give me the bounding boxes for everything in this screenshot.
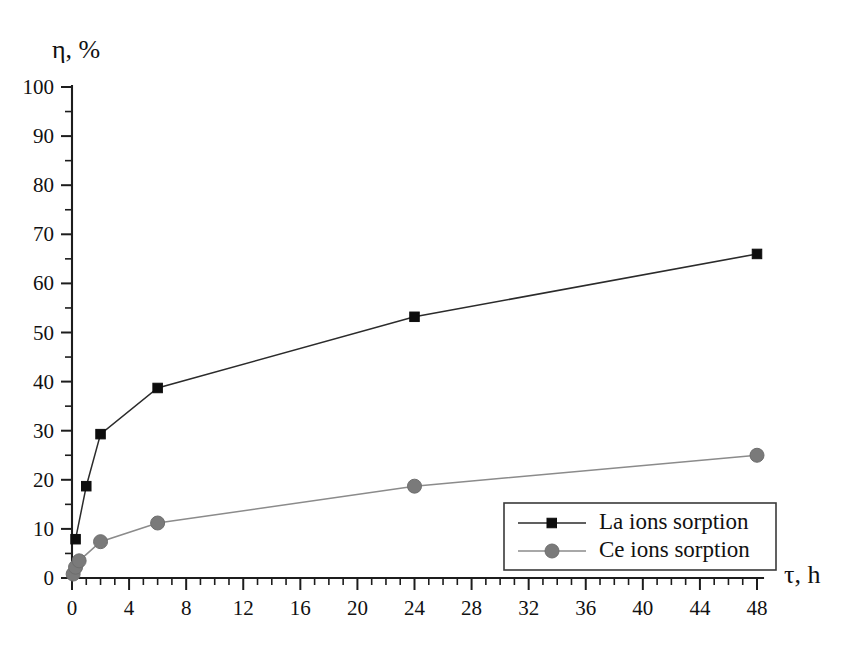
data-point-la xyxy=(82,481,92,491)
chart-canvas: 0102030405060708090100048121620242832364… xyxy=(0,0,854,649)
legend-marker-square-icon xyxy=(547,518,557,528)
y-tick-label: 100 xyxy=(23,75,55,99)
sorption-efficiency-chart: 0102030405060708090100048121620242832364… xyxy=(0,0,854,649)
x-tick-label: 40 xyxy=(632,596,653,620)
legend-label: La ions sorption xyxy=(599,509,749,534)
x-tick-label: 8 xyxy=(181,596,192,620)
y-tick-label: 20 xyxy=(33,468,54,492)
y-tick-label: 10 xyxy=(33,517,54,541)
y-tick-label: 40 xyxy=(33,370,54,394)
chart-legend[interactable]: La ions sorptionCe ions sorption xyxy=(504,503,776,570)
y-tick-label: 50 xyxy=(33,321,54,345)
y-tick-label: 0 xyxy=(44,566,55,590)
series-la xyxy=(71,249,762,544)
x-axis-label: τ, h xyxy=(784,560,820,589)
x-tick-label: 32 xyxy=(518,596,539,620)
series-line-la xyxy=(76,254,757,539)
data-point-la xyxy=(153,383,163,393)
y-tick-label: 30 xyxy=(33,419,54,443)
x-tick-label: 4 xyxy=(124,596,135,620)
x-tick-label: 20 xyxy=(347,596,368,620)
data-point-ce xyxy=(94,535,108,549)
data-point-ce xyxy=(408,479,422,493)
x-tick-label: 36 xyxy=(575,596,596,620)
data-point-la xyxy=(410,312,420,322)
y-tick-label: 90 xyxy=(33,124,54,148)
data-point-ce xyxy=(750,448,764,462)
x-tick-label: 12 xyxy=(233,596,254,620)
y-tick-label: 60 xyxy=(33,271,54,295)
data-point-ce xyxy=(151,516,165,530)
x-tick-label: 28 xyxy=(461,596,482,620)
y-axis-label: η, % xyxy=(52,35,100,64)
data-point-la xyxy=(71,534,81,544)
y-tick-label: 70 xyxy=(33,222,54,246)
x-tick-label: 44 xyxy=(689,596,711,620)
x-tick-label: 0 xyxy=(67,596,78,620)
legend-marker-circle-icon xyxy=(545,544,559,558)
data-point-la xyxy=(752,249,762,259)
data-point-la xyxy=(96,429,106,439)
legend-label: Ce ions sorption xyxy=(599,537,750,562)
x-tick-label: 24 xyxy=(404,596,426,620)
x-tick-label: 48 xyxy=(747,596,768,620)
y-tick-label: 80 xyxy=(33,173,54,197)
x-tick-label: 16 xyxy=(290,596,311,620)
data-point-ce xyxy=(72,554,86,568)
